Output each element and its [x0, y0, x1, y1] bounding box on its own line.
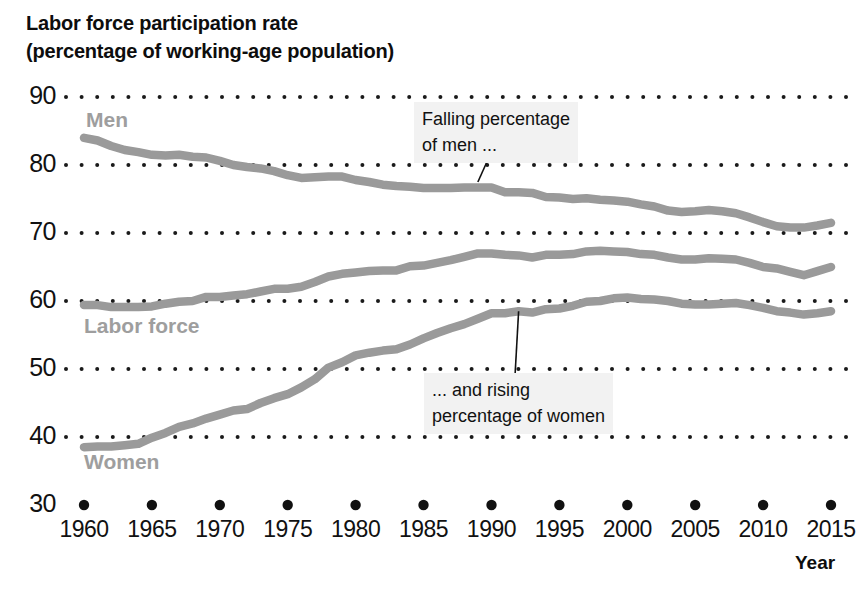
x-tick-label: 1970: [185, 516, 255, 543]
x-tick-label: 2000: [592, 516, 662, 543]
x-tick-dot: [283, 500, 293, 510]
x-axis-title: Year: [795, 552, 835, 574]
x-tick-dot: [758, 500, 768, 510]
x-tick-label: 1960: [49, 516, 119, 543]
annotation-falling-men: Falling percentageof men ...: [414, 102, 578, 163]
x-tick-dot: [826, 500, 836, 510]
annotation-women-line-2: percentage of women: [432, 406, 605, 426]
x-tick-dot: [554, 500, 564, 510]
series-label-women: Women: [84, 450, 159, 474]
x-tick-label: 1965: [117, 516, 187, 543]
x-tick-dot: [486, 500, 496, 510]
chart-plot-area: [0, 0, 867, 592]
x-tick-label: 2010: [728, 516, 798, 543]
x-tick-dot: [350, 500, 360, 510]
x-tick-label: 1975: [253, 516, 323, 543]
x-tick-label: 1990: [456, 516, 526, 543]
y-tick-label: 80: [10, 149, 56, 178]
y-tick-label: 70: [10, 217, 56, 246]
y-tick-label: 60: [10, 285, 56, 314]
annotation-men-line-2: of men ...: [422, 135, 497, 155]
x-tick-marks-group: [79, 500, 836, 510]
annotation-rising-women: ... and risingpercentage of women: [424, 373, 613, 434]
series-label-men: Men: [86, 108, 128, 132]
x-tick-dot: [418, 500, 428, 510]
y-tick-label: 40: [10, 421, 56, 450]
x-tick-label: 1985: [389, 516, 459, 543]
y-tick-label: 30: [10, 489, 56, 518]
x-tick-dot: [690, 500, 700, 510]
annotation-women-line-1: ... and rising: [432, 380, 530, 400]
x-tick-label: 1980: [321, 516, 391, 543]
x-tick-dot: [79, 500, 89, 510]
x-tick-dot: [147, 500, 157, 510]
x-tick-label: 2005: [660, 516, 730, 543]
x-tick-dot: [215, 500, 225, 510]
leader-line-women: [515, 311, 519, 376]
annotation-men-line-1: Falling percentage: [422, 109, 570, 129]
x-tick-dot: [622, 500, 632, 510]
chart-container: Labor force participation rate(percentag…: [0, 0, 867, 592]
series-line-labor-force: [84, 251, 831, 307]
y-tick-label: 90: [10, 81, 56, 110]
series-label-labor-force: Labor force: [84, 314, 200, 338]
x-tick-label: 2015: [796, 516, 866, 543]
x-tick-label: 1995: [524, 516, 594, 543]
y-tick-label: 50: [10, 353, 56, 382]
